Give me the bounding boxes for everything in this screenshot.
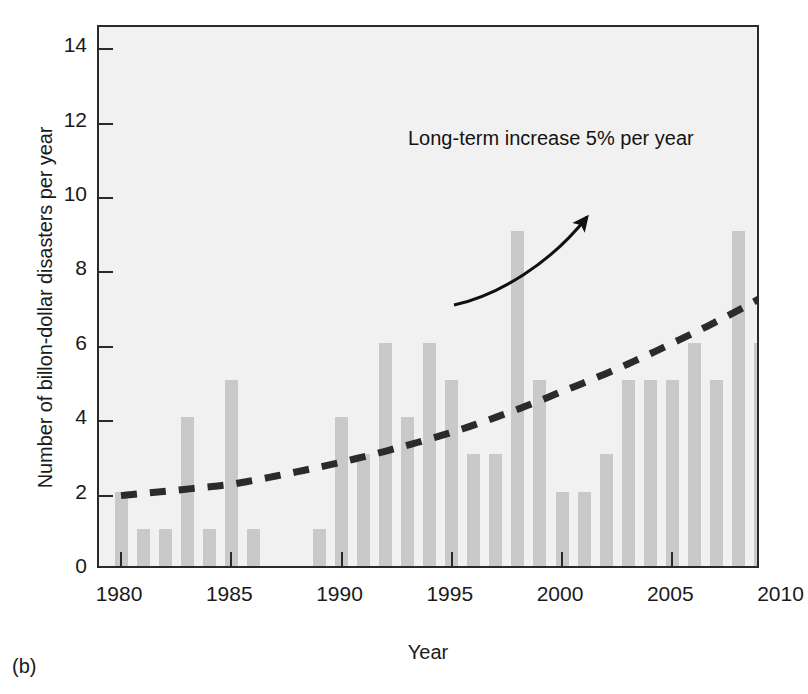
y-axis-tick-label: 0: [45, 554, 87, 578]
x-axis-title: Year: [97, 641, 759, 664]
x-axis-tick: [120, 552, 122, 566]
panel-label: (b): [12, 655, 36, 678]
y-axis-tick: [99, 271, 113, 273]
x-axis-tick-label: 1995: [410, 582, 490, 606]
y-axis-tick-label: 14: [45, 33, 87, 57]
x-axis-tick-label: 1990: [300, 582, 380, 606]
x-axis-tick-label: 1980: [79, 582, 159, 606]
x-axis-tick: [341, 552, 343, 566]
y-axis-tick-label: 4: [45, 405, 87, 429]
x-axis-tick: [561, 552, 563, 566]
y-axis-tick-label: 12: [45, 108, 87, 132]
x-axis-tick-label: 2000: [520, 582, 600, 606]
x-axis-tick: [230, 552, 232, 566]
arrow-curve-path: [454, 217, 587, 305]
y-axis-tick: [99, 48, 113, 50]
plot-area: [97, 25, 759, 568]
x-axis-tick-label: 2005: [630, 582, 710, 606]
y-axis-tick: [99, 495, 113, 497]
y-axis-tick: [99, 123, 113, 125]
plot-inner: [99, 27, 757, 566]
y-axis-tick-label: 10: [45, 182, 87, 206]
y-axis-tick-label: 6: [45, 331, 87, 355]
y-axis-tick-label: 8: [45, 256, 87, 280]
annotation-arrow: [99, 27, 759, 568]
y-axis-tick: [99, 346, 113, 348]
x-axis-tick-label: 2010: [741, 582, 808, 606]
trend-annotation-label: Long-term increase 5% per year: [408, 127, 694, 150]
y-axis-tick: [99, 197, 113, 199]
y-axis-tick-label: 2: [45, 480, 87, 504]
x-axis-tick: [451, 552, 453, 566]
x-axis-tick-label: 1985: [189, 582, 269, 606]
y-axis-tick: [99, 420, 113, 422]
x-axis-tick: [671, 552, 673, 566]
